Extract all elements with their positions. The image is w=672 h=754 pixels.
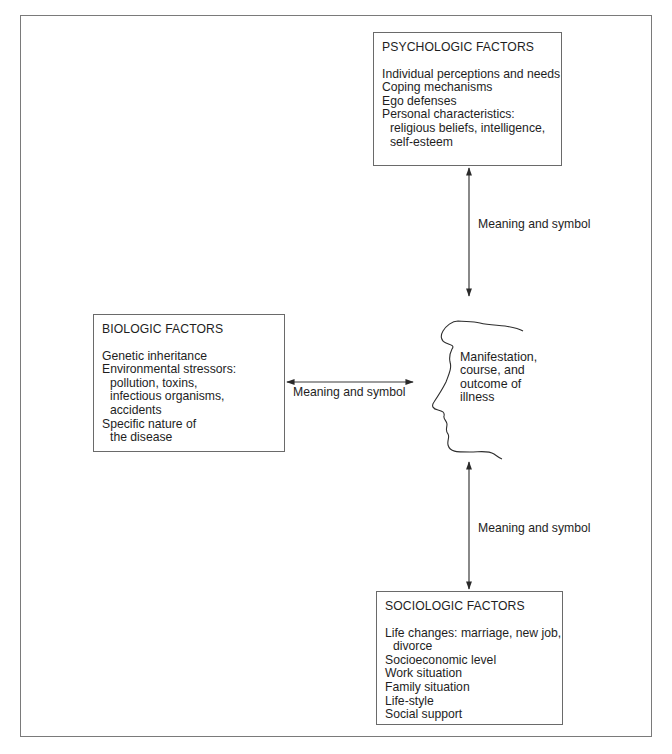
psychologic-item: Individual perceptions and needs [382,68,553,82]
biologic-factors-title: BIOLOGIC FACTORS [102,323,276,337]
psychologic-subitem: religious beliefs, intelligence, [382,122,553,136]
illness-outcome-line: outcome of [460,378,537,391]
illness-outcome-line: illness [460,391,537,404]
psychologic-subitem: self-esteem [382,136,553,150]
illness-outcome-line: course, and [460,364,537,377]
sociologic-item: Life changes: marriage, new job, [385,627,554,641]
meaning-symbol-label-middle: Meaning and symbol [293,385,405,399]
biologic-factors-box: BIOLOGIC FACTORS Genetic inheritance Env… [93,314,285,452]
meaning-symbol-label-top: Meaning and symbol [478,217,590,231]
biologic-item: Environmental stressors: [102,363,276,377]
psychologic-factors-box: PSYCHOLOGIC FACTORS Individual perceptio… [373,32,562,166]
biologic-subitem: infectious organisms, [102,390,276,404]
meaning-symbol-label-bottom: Meaning and symbol [478,521,590,535]
sociologic-subitem: divorce [385,640,554,654]
psychologic-item: Coping mechanisms [382,81,553,95]
sociologic-factors-title: SOCIOLOGIC FACTORS [385,600,554,614]
sociologic-item: Life-style [385,695,554,709]
sociologic-item: Social support [385,708,554,722]
biologic-subitem: the disease [102,431,276,445]
biologic-subitem: accidents [102,404,276,418]
illness-outcome-text: Manifestation, course, and outcome of il… [460,351,537,405]
psychologic-factors-title: PSYCHOLOGIC FACTORS [382,41,553,55]
biologic-item: Genetic inheritance [102,350,276,364]
sociologic-item: Socioeconomic level [385,654,554,668]
biologic-subitem: pollution, toxins, [102,377,276,391]
psychologic-item: Ego defenses [382,95,553,109]
sociologic-item: Family situation [385,681,554,695]
sociologic-factors-box: SOCIOLOGIC FACTORS Life changes: marriag… [376,591,563,725]
psychologic-item: Personal characteristics: [382,108,553,122]
sociologic-item: Work situation [385,667,554,681]
biologic-item: Specific nature of [102,418,276,432]
illness-outcome-line: Manifestation, [460,351,537,364]
